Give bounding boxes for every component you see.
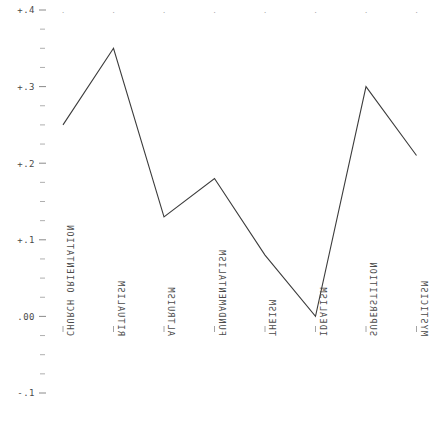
line-chart: +.4+.3+.2+.1.00-.1 ........ CHURCH ORIEN… [0,0,433,437]
x-axis-category-label: MYSTICISM [419,280,429,336]
y-axis-tick-label: +.2 [17,159,35,169]
top-axis-marker: . [414,7,418,15]
top-axis-marker: . [162,7,166,15]
x-axis-label-group: CHURCH ORIENTATIONRITUALISMALTRUISMFUNDA… [65,224,429,336]
top-axis-marker: . [111,7,115,15]
x-axis-category-label: RITUALISM [116,280,126,336]
data-series-line [63,48,417,316]
x-axis-category-label: FUNDAMENTALISM [217,249,227,336]
top-marker-group: ........ [61,7,419,15]
x-axis-category-label: THEISM [267,299,277,336]
top-axis-marker: . [263,7,267,15]
top-axis-marker: . [61,7,65,15]
y-axis-tick-label: +.1 [17,235,35,245]
y-axis-tick-label: +.4 [17,5,35,15]
y-axis-label-group: +.4+.3+.2+.1.00-.1 [17,5,35,398]
x-axis-category-label: SUPERSTITION [368,261,378,336]
y-axis-minor-tick-group [40,29,45,374]
x-axis-category-label: ALTRUISM [166,286,176,336]
top-axis-marker: . [212,7,216,15]
x-axis-category-label: IDEALISM [318,286,328,336]
y-axis-tick-label: .00 [17,312,35,322]
chart-canvas: +.4+.3+.2+.1.00-.1 ........ CHURCH ORIEN… [0,0,433,437]
top-axis-marker: . [364,7,368,15]
y-axis-tick-label: +.3 [17,82,35,92]
y-axis-tick-label: -.1 [17,388,35,398]
x-axis-category-label: CHURCH ORIENTATION [65,224,75,336]
top-axis-marker: . [313,7,317,15]
